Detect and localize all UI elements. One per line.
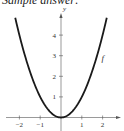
- ticks: −2−1121234: [16, 32, 105, 129]
- y-axis-arrow-icon: [59, 13, 62, 18]
- parabola-chart: −2−1121234 f y: [0, 0, 124, 131]
- x-tick-label: 1: [80, 121, 84, 129]
- x-tick-label: −2: [16, 121, 24, 129]
- y-tick-label: 3: [53, 52, 57, 60]
- y-tick-label: 4: [53, 32, 57, 40]
- function-label: f: [102, 53, 106, 63]
- x-tick-label: −1: [36, 121, 44, 129]
- y-tick-label: 1: [53, 93, 57, 101]
- y-axis-label: y: [62, 5, 67, 13]
- x-tick-label: 2: [101, 121, 105, 129]
- y-tick-label: 2: [53, 73, 57, 81]
- x-axis-arrow-icon: [116, 116, 121, 119]
